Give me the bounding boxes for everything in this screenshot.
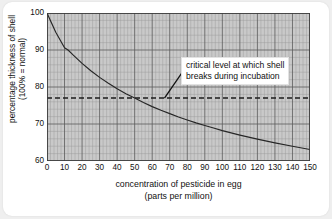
annotation-line2: breaks during incubation	[186, 71, 284, 82]
annotation-line1: critical level at which shell	[186, 60, 284, 71]
y-axis-title-line1: percentage thickness of shell	[7, 15, 17, 123]
x-axis-title: concentration of pesticide in egg (parts…	[47, 178, 310, 202]
x-axis-title-line2: (parts per million)	[47, 190, 310, 202]
x-tick-label: 150	[300, 163, 320, 172]
y-tick-label: 90	[22, 45, 44, 54]
x-axis-tick-labels: 0102030405060708090100110120130140150	[47, 163, 310, 175]
chart-figure: percentage thickness of shell (100% = no…	[0, 0, 332, 219]
plot-canvas	[47, 13, 310, 161]
x-axis-title-line1: concentration of pesticide in egg	[47, 178, 310, 190]
y-tick-label: 70	[22, 119, 44, 128]
y-axis-tick-labels: 60708090100	[20, 13, 44, 161]
y-tick-label: 80	[22, 82, 44, 91]
y-tick-label: 100	[22, 8, 44, 17]
plot-area	[47, 13, 310, 161]
critical-level-annotation: critical level at which shell breaks dur…	[181, 57, 289, 85]
